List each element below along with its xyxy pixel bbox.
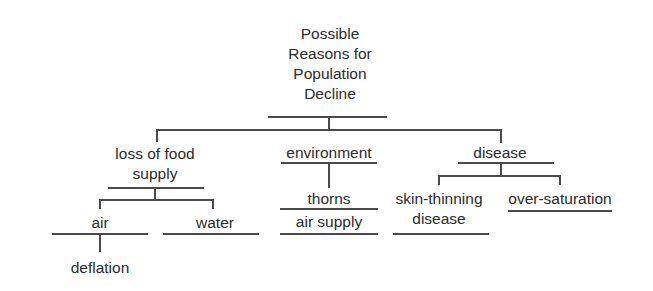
node-deflation: deflation: [60, 258, 140, 278]
node-air: air: [70, 213, 130, 233]
node-label-line: loss of food: [100, 144, 210, 164]
node-water: water: [180, 213, 250, 233]
node-skin-thinning-disease: skin-thinning disease: [384, 189, 494, 229]
connector-over-saturation: [559, 175, 561, 185]
disease-branch: [438, 175, 560, 177]
level1-branch-line: [156, 129, 501, 131]
root-label-line: Population: [262, 64, 398, 84]
over-saturation-underline: [508, 210, 612, 212]
node-over-saturation: over-saturation: [496, 189, 624, 209]
root-label-line: Possible: [262, 24, 398, 44]
water-underline: [163, 233, 259, 235]
node-label-line: skin-thinning: [384, 189, 494, 209]
node-loss-of-food-supply: loss of food supply: [100, 144, 210, 184]
connector-skin-thinning: [438, 175, 440, 185]
node-disease: disease: [460, 143, 540, 163]
node-environment: environment: [274, 143, 384, 163]
disease-connector: [500, 163, 502, 175]
node-air-supply: air supply: [280, 212, 378, 232]
loss-of-food-branch: [99, 199, 213, 201]
air-supply-underline: [280, 233, 378, 235]
node-label-line: supply: [100, 164, 210, 184]
connector-disease: [500, 129, 502, 143]
environment-connector: [328, 163, 330, 188]
connector-air: [99, 199, 101, 209]
loss-of-food-underline: [108, 187, 204, 189]
node-label-line: disease: [384, 209, 494, 229]
connector-water: [212, 199, 214, 209]
root-node: Possible Reasons for Population Decline: [262, 24, 398, 104]
skin-thinning-underline: [393, 233, 489, 235]
thorns-underline: [280, 208, 378, 210]
root-label-line: Reasons for: [262, 44, 398, 64]
root-label-line: Decline: [262, 84, 398, 104]
air-connector: [99, 233, 101, 252]
disease-underline: [458, 162, 554, 164]
node-thorns: thorns: [284, 189, 374, 209]
connector-loss-of-food: [156, 129, 158, 142]
loss-of-food-connector: [154, 187, 156, 199]
root-connector: [328, 116, 330, 129]
